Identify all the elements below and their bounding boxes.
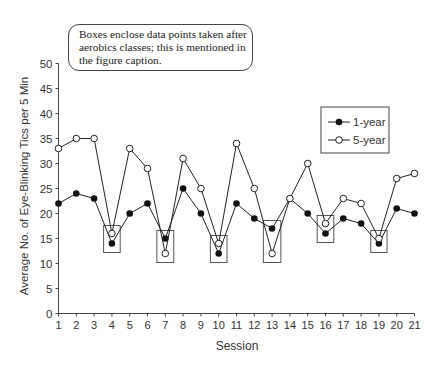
data-point	[109, 240, 116, 247]
annotation-line: Boxes enclose data points taken after	[79, 28, 252, 41]
data-point	[198, 210, 205, 217]
x-tick-label: 8	[180, 319, 186, 331]
data-point	[304, 160, 311, 167]
data-point	[251, 185, 258, 192]
data-point	[215, 250, 222, 257]
annotation-callout: Boxes enclose data points taken after ae…	[68, 24, 253, 71]
x-tick-label: 3	[91, 319, 97, 331]
highlight-boxes	[104, 216, 387, 263]
data-point	[304, 210, 311, 217]
axes	[59, 64, 415, 314]
data-point	[376, 235, 383, 242]
data-point	[180, 155, 187, 162]
x-tick-label: 2	[73, 319, 79, 331]
data-point	[340, 195, 347, 202]
y-tick-label: 50	[40, 58, 53, 70]
data-point	[251, 215, 258, 222]
data-point	[233, 140, 240, 147]
y-tick-label: 40	[40, 108, 53, 120]
data-point	[73, 135, 80, 142]
data-point	[55, 200, 62, 207]
x-tick-label: 16	[319, 319, 331, 331]
legend: 1-year 5-year	[321, 107, 389, 153]
data-point	[340, 215, 347, 222]
x-tick-label: 14	[284, 319, 296, 331]
y-tick-label: 35	[40, 133, 53, 145]
x-tick-label: 4	[109, 319, 115, 331]
legend-label: 1-year	[353, 116, 386, 128]
data-point	[91, 135, 98, 142]
x-tick-label: 6	[144, 319, 150, 331]
data-point	[233, 200, 240, 207]
x-tick-label: 17	[337, 319, 349, 331]
data-point	[411, 210, 418, 217]
data-point	[322, 220, 329, 227]
data-point	[126, 210, 133, 217]
data-point	[393, 205, 400, 212]
data-point	[358, 200, 365, 207]
x-tick-label: 1	[55, 319, 61, 331]
data-point	[91, 195, 98, 202]
data-point	[180, 185, 187, 192]
x-tick-label: 12	[248, 319, 260, 331]
data-point	[215, 240, 222, 247]
legend-label: 5-year	[353, 134, 386, 146]
y-tick-label: 30	[40, 158, 53, 170]
y-tick-label: 20	[40, 208, 53, 220]
open-circle-marker-icon	[336, 137, 343, 144]
data-point	[109, 230, 116, 237]
x-axis-ticks: 123456789101112131415161718192021	[55, 314, 420, 331]
x-tick-label: 15	[302, 319, 314, 331]
x-tick-label: 18	[355, 319, 367, 331]
x-tick-label: 19	[373, 319, 385, 331]
data-point	[322, 230, 329, 237]
y-axis-ticks: 05101520253035404550	[40, 58, 59, 320]
data-point	[411, 170, 418, 177]
data-point	[73, 190, 80, 197]
annotation-line: aerobics classes; this is mentioned in	[79, 41, 252, 54]
y-tick-label: 45	[40, 83, 53, 95]
data-point	[126, 145, 133, 152]
data-point	[162, 250, 169, 257]
x-tick-label: 21	[408, 319, 420, 331]
y-tick-label: 0	[46, 308, 52, 320]
data-point	[55, 145, 62, 152]
data-point	[144, 200, 151, 207]
x-tick-label: 20	[391, 319, 403, 331]
x-tick-label: 11	[231, 319, 242, 331]
annotation-line: the figure caption.	[79, 54, 252, 67]
filled-circle-marker-icon	[336, 119, 343, 126]
data-point	[198, 185, 205, 192]
x-tick-label: 13	[266, 319, 278, 331]
y-tick-label: 10	[40, 258, 53, 270]
data-point	[287, 195, 294, 202]
x-axis-label: Session	[216, 339, 259, 353]
y-tick-label: 25	[40, 183, 53, 195]
data-point	[269, 250, 276, 257]
x-tick-label: 10	[213, 319, 225, 331]
data-point	[144, 165, 151, 172]
x-tick-label: 9	[198, 319, 204, 331]
y-tick-label: 15	[40, 233, 53, 245]
y-tick-label: 5	[46, 283, 52, 295]
data-point	[269, 225, 276, 232]
y-axis-label: Average No. of Eye-Blinking Tics per 5 M…	[18, 77, 30, 295]
data-point	[393, 175, 400, 182]
x-tick-label: 5	[127, 319, 133, 331]
x-tick-label: 7	[162, 319, 168, 331]
data-point	[358, 220, 365, 227]
